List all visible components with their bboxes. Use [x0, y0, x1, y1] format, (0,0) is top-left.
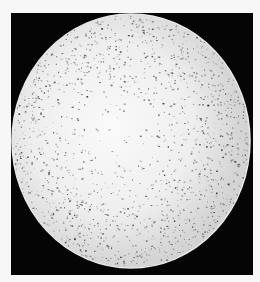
speckle [137, 229, 139, 230]
speckle [212, 188, 213, 189]
speckle [179, 218, 180, 219]
speckle [108, 25, 109, 26]
speckle [143, 32, 145, 33]
speckle [25, 112, 26, 113]
speckle [71, 63, 72, 64]
speckle [43, 185, 45, 186]
speckle [87, 73, 88, 74]
speckle [191, 187, 192, 188]
speckle [106, 224, 107, 225]
speckle [175, 80, 176, 81]
speckle [233, 181, 234, 182]
speckle [199, 182, 200, 183]
speckle [147, 198, 149, 199]
speckle [39, 152, 40, 153]
speckle [88, 211, 89, 212]
speckle [181, 98, 183, 99]
speckle [43, 188, 44, 189]
speckle [162, 64, 163, 65]
speckle [70, 192, 72, 193]
speckle [181, 135, 182, 136]
speckle [157, 161, 158, 162]
speckle [102, 211, 103, 212]
speckle [171, 39, 173, 40]
speckle [180, 74, 181, 75]
speckle [170, 244, 171, 245]
speckle [213, 74, 214, 75]
speckle [141, 169, 143, 170]
speckle [204, 195, 205, 196]
speckle [173, 55, 175, 56]
speckle [162, 184, 163, 185]
speckle [175, 169, 176, 170]
speckle [107, 111, 109, 112]
speckle [175, 237, 176, 238]
speckle [117, 56, 119, 57]
speckle [21, 127, 22, 128]
speckle [53, 55, 54, 56]
speckle [188, 56, 189, 57]
speckle [103, 58, 104, 59]
speckle [97, 223, 98, 224]
speckle [211, 206, 213, 207]
speckle [228, 81, 229, 82]
speckle [239, 165, 240, 166]
speckle [144, 73, 146, 74]
speckle [62, 177, 63, 178]
speckle [202, 228, 203, 229]
speckle [220, 83, 221, 84]
speckle [189, 187, 190, 188]
speckle [213, 62, 214, 63]
speckle [96, 42, 97, 43]
speckle [136, 216, 138, 217]
speckle [67, 68, 68, 69]
speckle [216, 193, 217, 194]
speckle [34, 168, 35, 169]
speckle [184, 35, 185, 36]
speckle [114, 33, 116, 34]
speckle [91, 232, 92, 233]
speckle [216, 64, 217, 65]
speckle [90, 91, 92, 92]
speckle [102, 257, 103, 258]
speckle [180, 160, 181, 161]
speckle [171, 130, 172, 131]
speckle [205, 75, 206, 76]
speckle [105, 238, 106, 239]
speckle [141, 249, 142, 250]
speckle [72, 107, 73, 108]
speckle [202, 84, 203, 85]
speckle [59, 230, 60, 231]
speckle [193, 218, 195, 219]
speckle [173, 211, 174, 212]
speckle [226, 213, 227, 214]
speckle [15, 154, 16, 155]
speckle [233, 102, 234, 103]
speckle [113, 220, 114, 221]
speckle [96, 55, 97, 56]
speckle [216, 181, 217, 182]
speckle [81, 179, 82, 180]
speckle [143, 96, 144, 97]
speckle [47, 81, 48, 82]
speckle [134, 80, 135, 81]
speckle [187, 87, 188, 88]
speckle [226, 198, 227, 199]
speckle [193, 48, 194, 49]
speckle [180, 58, 182, 59]
speckle [182, 111, 183, 112]
speckle [178, 205, 179, 206]
speckle [231, 108, 232, 109]
speckle [232, 127, 233, 128]
speckle [179, 73, 180, 74]
speckle [24, 171, 25, 172]
speckle [215, 222, 217, 223]
speckle [34, 117, 36, 118]
speckle [202, 126, 203, 127]
speckle [189, 244, 190, 245]
speckle [184, 187, 185, 188]
speckle [20, 147, 21, 148]
speckle [93, 58, 94, 59]
speckle [228, 94, 229, 95]
speckle [209, 69, 210, 70]
